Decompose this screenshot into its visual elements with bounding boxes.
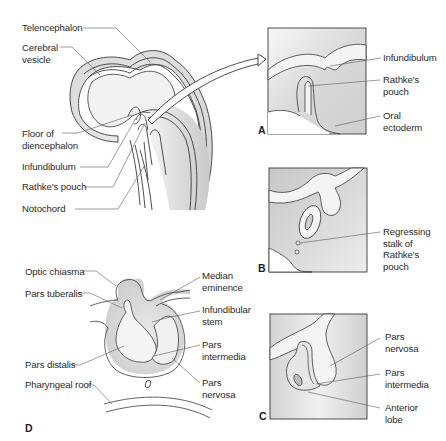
label-d-optic-chiasma: Optic chiasma bbox=[25, 266, 84, 278]
label-infundibulum: Infundibulum bbox=[22, 161, 76, 173]
label-rathkes-pouch: Rathke's pouch bbox=[22, 181, 86, 193]
label-b-regressing-stalk: Regressing stalk of Rathke's pouch bbox=[383, 226, 431, 272]
label-d-pars-intermedia: Pars intermedia bbox=[202, 339, 246, 362]
panel-letter-a: A bbox=[258, 124, 266, 136]
label-c-anterior-lobe: Anterior lobe bbox=[385, 402, 418, 425]
panel-d bbox=[72, 271, 212, 418]
label-notochord: Notochord bbox=[22, 203, 65, 215]
panel-letter-b: B bbox=[258, 262, 266, 274]
label-d-pars-nervosa: Pars nervosa bbox=[202, 377, 235, 400]
label-d-pars-tuberalis: Pars tuberalis bbox=[25, 288, 82, 300]
panel-letter-c: C bbox=[259, 410, 267, 422]
label-a-rathkes-pouch: Rathke's pouch bbox=[383, 74, 419, 97]
label-d-infundibular-stem: Infundibular stem bbox=[202, 304, 251, 327]
panel-letter-d: D bbox=[25, 422, 33, 434]
panel-c bbox=[270, 314, 380, 419]
label-c-pars-nervosa: Pars nervosa bbox=[385, 331, 418, 354]
pituitary-development-figure bbox=[0, 0, 446, 441]
label-d-pharyngeal-roof: Pharyngeal roof bbox=[25, 379, 91, 391]
label-telencephalon: Telencephalon bbox=[22, 22, 83, 34]
label-a-oral-ectoderm: Oral ectoderm bbox=[383, 110, 422, 133]
label-c-pars-intermedia: Pars intermedia bbox=[385, 367, 429, 390]
label-d-median-eminence: Median eminence bbox=[202, 270, 243, 293]
label-cerebral-vesicle: Cerebral vesicle bbox=[22, 42, 58, 65]
panel-a bbox=[268, 28, 381, 134]
label-d-pars-distalis: Pars distalis bbox=[25, 359, 75, 371]
label-a-infundibulum: Infundibulum bbox=[383, 52, 437, 64]
panel-b bbox=[269, 168, 380, 272]
label-floor-of-diencephalon: Floor of diencephalon bbox=[22, 128, 78, 151]
